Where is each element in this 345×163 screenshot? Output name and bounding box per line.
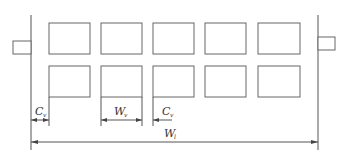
layout-diagram: C v W v C v W l bbox=[0, 0, 345, 163]
cell-r2-c2 bbox=[101, 66, 142, 97]
cell-grid bbox=[49, 23, 300, 97]
label-sub: v bbox=[124, 111, 128, 118]
cell-r1-c2 bbox=[101, 23, 142, 54]
cell-r2-c3 bbox=[153, 66, 194, 97]
cell-r1-c3 bbox=[153, 23, 194, 54]
dimension-edge-clearance: C v bbox=[31, 105, 49, 122]
dimension-total-width: W l bbox=[31, 127, 318, 144]
left-connector-stub bbox=[13, 41, 31, 54]
cell-r2-c4 bbox=[205, 66, 246, 97]
label-sub: v bbox=[43, 111, 47, 118]
label-sub: v bbox=[170, 111, 174, 118]
cell-r1-c4 bbox=[205, 23, 246, 54]
dimension-cell-width: W v bbox=[101, 105, 142, 122]
label-sub: l bbox=[174, 133, 176, 140]
cell-r2-c1 bbox=[49, 66, 90, 97]
cell-r1-c5 bbox=[258, 23, 300, 54]
cell-r2-c5 bbox=[258, 66, 300, 97]
cell-r1-c1 bbox=[49, 23, 90, 54]
right-connector-stub bbox=[318, 37, 335, 50]
dimension-cell-gap: C v bbox=[153, 105, 174, 122]
